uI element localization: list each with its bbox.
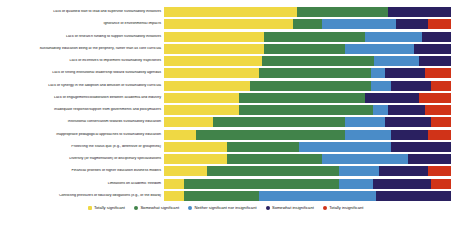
legend-label: Totally insignificant xyxy=(329,206,363,210)
legend-item[interactable]: Somewhat significant xyxy=(134,206,179,210)
bar-segment xyxy=(431,81,451,91)
bar-segment xyxy=(391,81,431,91)
category-label: Diversity (or fragmentation) of discipli… xyxy=(0,157,164,161)
legend-item[interactable]: Totally significant xyxy=(88,206,125,210)
bar-segment xyxy=(164,117,213,127)
bar-track xyxy=(164,6,451,18)
bar-segment xyxy=(376,191,451,201)
bar-segment xyxy=(431,117,451,127)
legend-item[interactable]: Totally insignificant xyxy=(323,206,364,210)
bar-segment xyxy=(164,56,262,66)
bar-segment xyxy=(391,130,428,140)
bar-segment xyxy=(264,32,364,42)
bar-segment xyxy=(385,117,431,127)
bar-row: Conflicting pressures of fiduciary oblig… xyxy=(0,190,451,202)
category-label: Lack of research funding to support sust… xyxy=(0,35,164,39)
bar-segment xyxy=(227,142,299,152)
bar-segment xyxy=(428,19,451,29)
chart-legend: Totally significantSomewhat significantN… xyxy=(0,206,451,210)
bar-segment xyxy=(428,166,451,176)
bar-segment xyxy=(422,32,451,42)
stacked-bar xyxy=(164,19,451,29)
plot-area: Lack of qualified staff to lead and supe… xyxy=(0,6,451,202)
bar-segment xyxy=(371,81,391,91)
bar-track xyxy=(164,92,451,104)
legend-label: Somewhat significant xyxy=(140,206,179,210)
bar-track xyxy=(164,116,451,128)
bar-segment xyxy=(396,19,428,29)
bar-track xyxy=(164,141,451,153)
bar-row: Institutional conservatism towards susta… xyxy=(0,116,451,128)
bar-segment xyxy=(428,130,451,140)
category-label: Inadequate response/support from governm… xyxy=(0,108,164,112)
bar-segment xyxy=(371,68,385,78)
stacked-bar-chart: Lack of qualified staff to lead and supe… xyxy=(0,0,451,235)
bar-segment xyxy=(164,68,259,78)
bar-segment xyxy=(425,105,451,115)
bar-segment xyxy=(425,68,451,78)
bar-track xyxy=(164,80,451,92)
bar-segment xyxy=(239,93,365,103)
bar-segment xyxy=(250,81,371,91)
category-label: Inappropriate pedagogical approaches to … xyxy=(0,133,164,137)
stacked-bar xyxy=(164,154,451,164)
legend-swatch-icon xyxy=(88,206,92,210)
bar-segment xyxy=(227,154,322,164)
bar-segment xyxy=(339,179,373,189)
bar-track xyxy=(164,43,451,55)
legend-label: Totally significant xyxy=(94,206,125,210)
bar-segment xyxy=(419,56,451,66)
category-label: Lack of incentives to implement sustaina… xyxy=(0,59,164,63)
bar-segment xyxy=(374,56,420,66)
bar-row: Lack of strong institutional leadership … xyxy=(0,67,451,79)
bar-segment xyxy=(164,81,250,91)
bar-segment xyxy=(164,154,227,164)
category-label: Lack of engagement/collaboration between… xyxy=(0,96,164,100)
stacked-bar xyxy=(164,117,451,127)
category-label: Lack of synergy in the adoption and diff… xyxy=(0,84,164,88)
category-label: Protecting the status quo (e.g., defensi… xyxy=(0,145,164,149)
stacked-bar xyxy=(164,166,451,176)
category-label: Sustainability education being at the pe… xyxy=(0,47,164,51)
bar-segment xyxy=(339,166,379,176)
stacked-bar xyxy=(164,81,451,91)
stacked-bar xyxy=(164,142,451,152)
bar-segment xyxy=(408,154,451,164)
legend-swatch-icon xyxy=(188,206,192,210)
stacked-bar xyxy=(164,7,451,17)
bar-track xyxy=(164,31,451,43)
bar-segment xyxy=(431,179,451,189)
stacked-bar xyxy=(164,32,451,42)
bar-segment xyxy=(373,105,387,115)
bar-segment xyxy=(164,191,184,201)
bar-track xyxy=(164,165,451,177)
stacked-bar xyxy=(164,68,451,78)
bar-row: Sustainability education being at the pe… xyxy=(0,43,451,55)
bar-row: Lack of qualified staff to lead and supe… xyxy=(0,6,451,18)
bar-segment xyxy=(365,32,422,42)
bar-segment xyxy=(373,179,430,189)
bar-segment xyxy=(164,166,207,176)
bar-segment xyxy=(164,7,297,17)
bar-track xyxy=(164,190,451,202)
legend-item[interactable]: Neither significant nor insignificant xyxy=(188,206,257,210)
category-label: Ignorance of environmental impacts xyxy=(0,22,164,26)
bar-segment xyxy=(385,68,425,78)
legend-swatch-icon xyxy=(266,206,270,210)
bar-track xyxy=(164,178,451,190)
bar-row: Protecting the status quo (e.g., defensi… xyxy=(0,141,451,153)
bar-segment xyxy=(379,166,428,176)
bar-track xyxy=(164,104,451,116)
bar-segment xyxy=(164,179,184,189)
bar-segment xyxy=(164,32,264,42)
legend-item[interactable]: Somewhat insignificant xyxy=(266,206,314,210)
bar-segment xyxy=(299,142,391,152)
stacked-bar xyxy=(164,93,451,103)
bar-track xyxy=(164,153,451,165)
stacked-bar xyxy=(164,191,451,201)
bar-segment xyxy=(293,19,322,29)
bar-segment xyxy=(345,44,414,54)
bar-row: Diversity (or fragmentation) of discipli… xyxy=(0,153,451,165)
bar-track xyxy=(164,55,451,67)
stacked-bar xyxy=(164,130,451,140)
